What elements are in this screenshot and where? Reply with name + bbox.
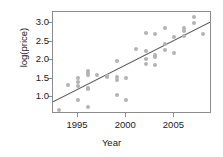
data-points-layer	[53, 12, 210, 112]
data-point	[76, 98, 80, 102]
y-axis-tick-label: 2.5	[36, 36, 49, 46]
x-axis-tick-label: 2005	[163, 120, 184, 130]
data-point	[124, 98, 128, 102]
data-point	[115, 59, 119, 63]
data-point	[86, 87, 90, 91]
data-point	[182, 29, 186, 33]
data-point	[163, 42, 167, 46]
y-axis-label: log(price)	[18, 13, 29, 83]
data-point	[57, 108, 61, 112]
data-point	[172, 51, 176, 55]
data-point	[66, 83, 70, 87]
data-point	[192, 15, 196, 19]
data-point	[115, 93, 119, 97]
data-point	[115, 78, 119, 82]
data-point	[163, 26, 167, 30]
x-axis-tick	[125, 113, 126, 117]
data-point	[76, 84, 80, 88]
y-axis-tick-label: 1.5	[36, 73, 49, 83]
data-point	[153, 63, 157, 67]
y-axis-tick-label: 2.0	[36, 54, 49, 64]
data-point	[201, 32, 205, 36]
x-axis-label: Year	[0, 137, 223, 148]
scatter-plot-figure: 1.01.52.02.53.0 199520002005 log(price) …	[0, 0, 223, 157]
data-point	[86, 105, 90, 109]
data-point	[144, 57, 148, 61]
data-point	[153, 55, 157, 59]
plot-area	[52, 11, 211, 113]
data-point	[76, 80, 80, 84]
data-point	[144, 49, 148, 53]
data-point	[95, 73, 99, 77]
data-point	[86, 73, 90, 77]
y-axis-tick-label: 1.0	[36, 91, 49, 101]
data-point	[153, 32, 157, 36]
data-point	[182, 34, 186, 38]
data-point	[163, 48, 167, 52]
data-point	[172, 35, 176, 39]
x-axis-tick-label: 1995	[66, 120, 87, 130]
data-point	[105, 75, 109, 79]
data-point	[192, 21, 196, 25]
x-axis-tick	[173, 113, 174, 117]
data-point	[144, 31, 148, 35]
data-point	[144, 62, 148, 66]
x-axis-tick-label: 2000	[115, 120, 136, 130]
data-point	[124, 76, 128, 80]
x-axis-tick	[77, 113, 78, 117]
data-point	[134, 47, 138, 51]
y-axis-tick-label: 3.0	[36, 17, 49, 27]
